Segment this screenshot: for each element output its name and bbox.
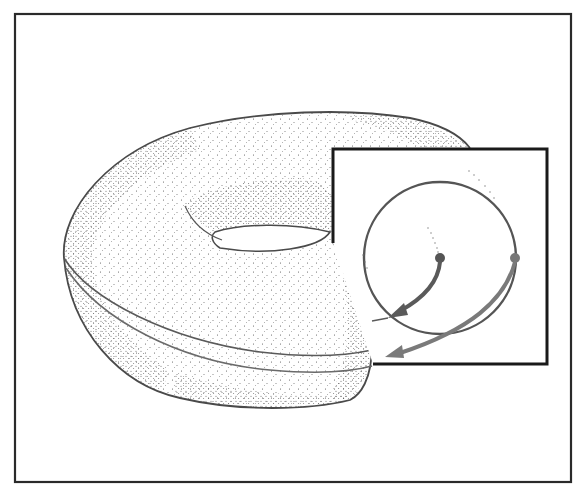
illustration-canvas [0,0,582,489]
torus-illustration [0,0,582,489]
cross-section-inset [333,149,547,364]
